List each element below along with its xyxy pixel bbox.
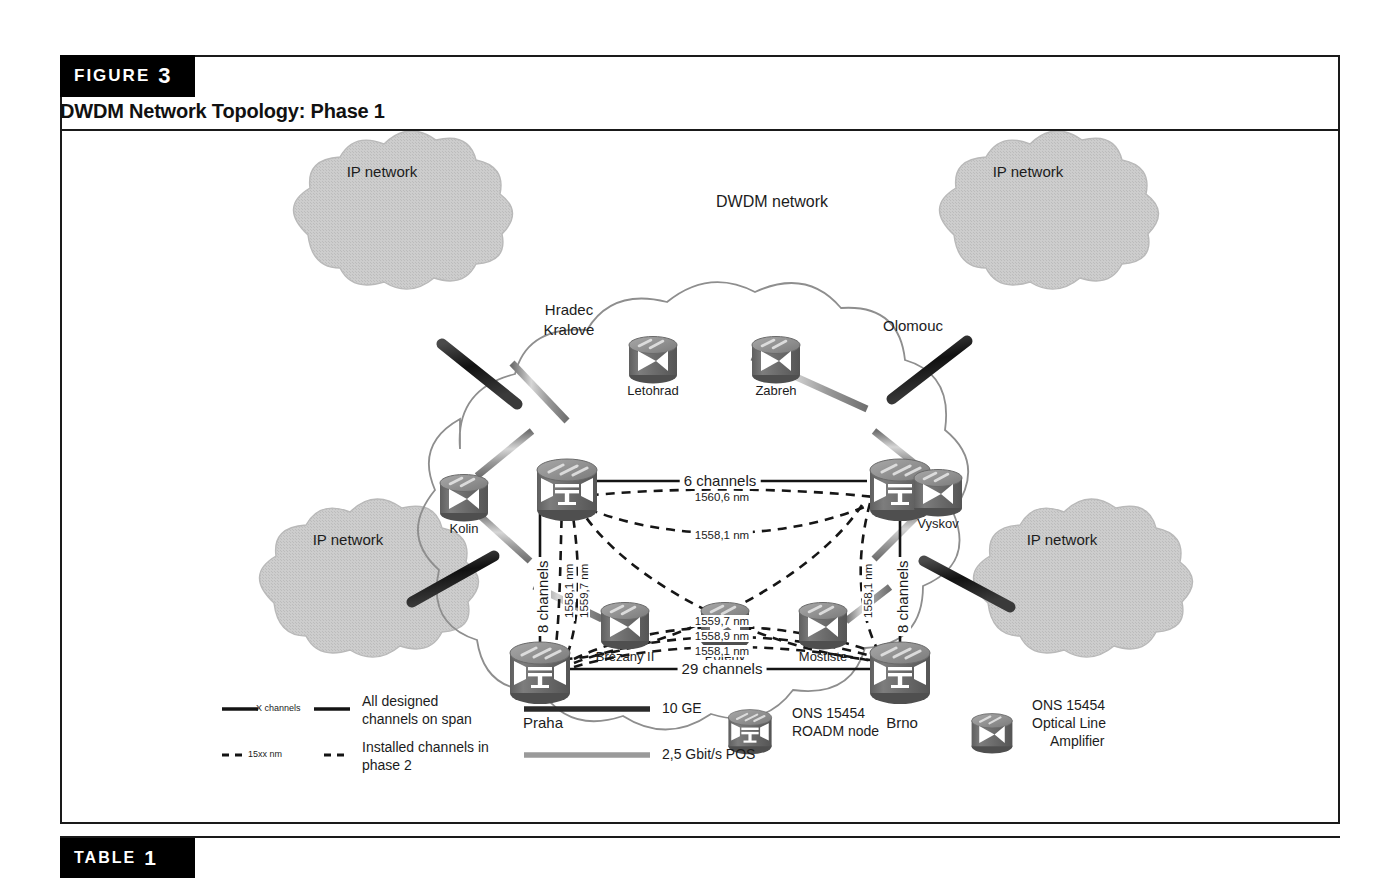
node-label-hradec-kralove-line2: Kralove: [544, 321, 595, 338]
node-brezany-ii[interactable]: [601, 603, 649, 650]
wavelength-label-1558-1-right: 1558,1 nm: [862, 561, 874, 621]
legend-desc-amp-line1: ONS 15454: [1032, 697, 1105, 714]
node-mostiste[interactable]: [799, 603, 847, 650]
table-badge-number: 1: [144, 846, 156, 870]
node-label-vyskov: Vyskov: [917, 516, 958, 531]
legend-desc-designed-line1: All designed: [362, 693, 438, 710]
ip-cloud-label-top-left: IP network: [347, 163, 418, 180]
node-label-olomouc: Olomouc: [883, 317, 943, 334]
ip-cloud-bottom-right: [973, 499, 1192, 657]
ip-cloud-label-top-right: IP network: [993, 163, 1064, 180]
figure-title: DWDM Network Topology: Phase 1: [60, 100, 385, 123]
node-letohrad[interactable]: [629, 337, 677, 384]
legend-desc-phase2-line1: Installed channels in: [362, 739, 489, 756]
node-brno[interactable]: [870, 642, 930, 704]
span-label-8-channels-left: 8 channels: [534, 557, 551, 636]
figure-badge-number: 3: [158, 63, 170, 89]
legend-amplifier-icon: [972, 714, 1013, 754]
node-vyskov[interactable]: [914, 470, 962, 517]
span-label-29-channels: 29 channels: [678, 660, 767, 677]
node-label-mostiste: Mostiste: [799, 649, 847, 664]
span-label-6-channels: 6 channels: [680, 472, 761, 489]
wavelength-label-1558-9-bottom: 1558,9 nm: [691, 630, 753, 642]
wavelength-label-1560-6: 1560,6 nm: [691, 491, 753, 503]
wavelength-label-1559-7-bottom: 1559,7 nm: [691, 615, 753, 627]
node-label-zabreh: Zabreh: [755, 383, 796, 398]
wavelength-label-1558-1-bottom: 1558,1 nm: [691, 645, 753, 657]
legend-desc-phase2-line2: phase 2: [362, 757, 412, 774]
legend-desc-roadm-line1: ONS 15454: [792, 705, 865, 722]
link-pos-top-chain: [512, 357, 867, 421]
node-label-praha: Praha: [523, 714, 563, 731]
node-label-hradec-kralove-line1: Hradec: [545, 301, 593, 318]
node-label-brezany-ii: Brezany II: [596, 649, 655, 664]
node-kolin[interactable]: [440, 475, 488, 522]
node-hradec-kralove[interactable]: [537, 459, 597, 521]
wavelength-label-1559-7-left: 1559,7 nm: [578, 561, 590, 621]
figure-badge-word: FIGURE: [74, 66, 150, 86]
network-topology-diagram: IP network IP network IP network IP netw…: [62, 131, 1338, 822]
legend-desc-amp-line2: Optical Line: [1032, 715, 1106, 732]
node-label-kolin: Kolin: [450, 521, 479, 536]
node-label-brno: Brno: [886, 714, 918, 731]
legend-desc-10ge: 10 GE: [662, 700, 702, 717]
wavelength-label-1558-1-top: 1558,1 nm: [691, 529, 753, 541]
table-badge-word: TABLE: [74, 849, 136, 867]
ip-cloud-label-bottom-right: IP network: [1027, 531, 1098, 548]
span-label-8-channels-right: 8 channels: [894, 557, 911, 636]
legend-desc-amp-line3: Amplifier: [1050, 733, 1104, 750]
legend-desc-designed-line2: channels on span: [362, 711, 472, 728]
table-top-rule: [60, 836, 1340, 838]
ip-cloud-top-left: [293, 131, 512, 289]
legend-desc-roadm-line2: ROADM node: [792, 723, 879, 740]
figure-badge: FIGURE 3: [60, 55, 195, 97]
legend-key-15xx-nm: 15xx nm: [248, 749, 282, 760]
ip-cloud-label-bottom-left: IP network: [313, 531, 384, 548]
node-zabreh[interactable]: [752, 337, 800, 384]
wavelength-label-1558-1-left: 1558,1 nm: [563, 561, 575, 621]
ip-cloud-top-right: [939, 131, 1158, 289]
node-label-letohrad: Letohrad: [627, 383, 678, 398]
legend-desc-pos: 2,5 Gbit/s POS: [662, 746, 755, 763]
node-praha[interactable]: [510, 642, 570, 704]
dwdm-cloud-label: DWDM network: [716, 193, 828, 211]
table-badge: TABLE 1: [60, 838, 195, 878]
legend-key-x-channels: X channels: [256, 703, 301, 714]
